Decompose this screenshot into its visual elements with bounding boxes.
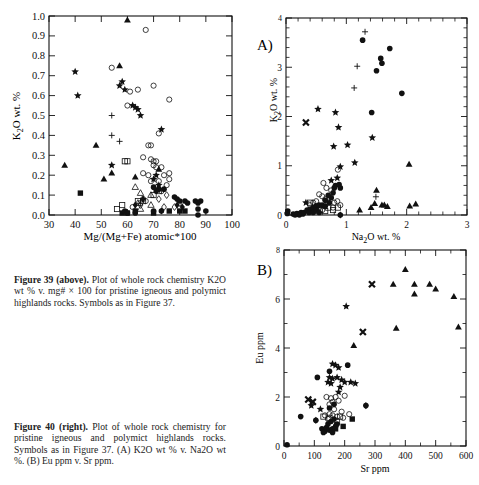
series-filled-diamond bbox=[313, 402, 368, 424]
tick-labels: 304050607080901000.00.10.20.30.40.50.60.… bbox=[32, 11, 240, 231]
data-point-square-filled bbox=[350, 416, 355, 421]
x-tick-label: 3 bbox=[465, 220, 470, 230]
x-tick-label: 50 bbox=[96, 219, 107, 230]
data-point-circle-open bbox=[331, 407, 336, 412]
y-tick-label: 8 bbox=[276, 246, 280, 255]
data-point-circle-filled bbox=[316, 210, 322, 216]
data-point-triangle-filled bbox=[411, 291, 418, 297]
y-tick-label: 0.3 bbox=[32, 150, 45, 161]
y-tick-label: 0 bbox=[275, 442, 280, 452]
data-point-x-bold bbox=[369, 281, 375, 287]
data-point-star bbox=[347, 378, 355, 385]
data-point-circle-open bbox=[167, 171, 172, 176]
x-tick-label: 100 bbox=[224, 219, 240, 230]
series-filled-hexagon bbox=[284, 362, 368, 447]
x-tick-label: 500 bbox=[429, 451, 444, 461]
data-point-circle-filled bbox=[132, 210, 138, 216]
data-point-circle-filled bbox=[387, 46, 393, 52]
y-tick-label: 4 bbox=[275, 344, 280, 354]
data-point-triangle-filled bbox=[455, 324, 462, 330]
data-point-circle-open bbox=[167, 97, 172, 102]
data-point-triangle-filled bbox=[350, 342, 357, 348]
data-point-star bbox=[137, 112, 145, 119]
data-point-diamond-filled bbox=[141, 195, 146, 202]
x-tick-label: 0 bbox=[282, 451, 287, 461]
data-point-square-open bbox=[323, 208, 328, 213]
data-point-x-bold bbox=[360, 329, 366, 335]
data-point-circle-open bbox=[324, 185, 329, 190]
y-axis-label: K2O wt. % bbox=[268, 78, 282, 122]
data-point-star bbox=[108, 161, 116, 168]
series-star bbox=[302, 105, 376, 206]
data-point-star bbox=[344, 141, 352, 148]
data-point-circle-filled bbox=[374, 68, 380, 74]
data-point-triangle-filled bbox=[393, 325, 400, 331]
data-point-circle-filled bbox=[195, 212, 201, 218]
x-axis-label: Sr ppm bbox=[360, 463, 389, 474]
data-point-triangle-filled bbox=[132, 174, 139, 180]
x-tick-label: 40 bbox=[70, 219, 81, 230]
data-point-circle-filled bbox=[195, 206, 201, 212]
data-point-circle-filled bbox=[292, 212, 298, 218]
chart-eu-vs-sr: 010020030040050060002468 B) Sr ppm Eu pp… bbox=[254, 246, 473, 474]
data-point-circle-filled bbox=[185, 200, 191, 206]
data-point-circle-filled bbox=[284, 442, 290, 448]
y-tick-label: 6 bbox=[275, 295, 280, 305]
data-point-circle-filled bbox=[345, 362, 351, 368]
data-point-circle-open bbox=[335, 167, 340, 172]
y-tick-label: 0.2 bbox=[32, 170, 45, 181]
y-tick-label: 0.9 bbox=[32, 30, 45, 41]
data-point-star bbox=[327, 177, 335, 184]
y-tick-label: 0.0 bbox=[32, 210, 45, 221]
data-point-star bbox=[351, 159, 359, 166]
data-point-triangle-filled bbox=[61, 162, 68, 168]
data-point-plus bbox=[351, 85, 357, 91]
tick-labels: 010020030040050060002468 bbox=[275, 246, 473, 461]
data-point-triangle-filled bbox=[412, 201, 419, 207]
data-point-diamond-filled bbox=[363, 402, 368, 409]
y-tick-label: 1.0 bbox=[32, 11, 45, 22]
y-axis-label: K2O wt. % bbox=[10, 92, 25, 140]
data-point-plus bbox=[117, 138, 123, 144]
data-point-star bbox=[317, 405, 325, 412]
data-point-triangle-filled bbox=[406, 161, 413, 167]
x-tick-label: 1 bbox=[344, 220, 349, 230]
panel-label-a: A) bbox=[257, 37, 273, 54]
y-tick-label: 0.7 bbox=[32, 70, 45, 81]
caption-label: Figure 39 (above). bbox=[14, 274, 89, 285]
data-point-square-open bbox=[114, 206, 119, 211]
data-points bbox=[61, 16, 208, 217]
data-point-circle-open bbox=[332, 200, 337, 205]
data-point-circle-filled bbox=[399, 91, 405, 97]
plot-frame bbox=[284, 250, 466, 446]
x-tick-label: 80 bbox=[174, 219, 185, 230]
data-point-square-open bbox=[120, 202, 125, 207]
data-point-triangle-open bbox=[137, 190, 143, 196]
data-point-circle-filled bbox=[327, 368, 333, 374]
data-point-circle-open bbox=[167, 177, 172, 182]
x-tick-label: 70 bbox=[148, 219, 159, 230]
data-point-circle-open bbox=[339, 409, 344, 414]
data-point-plus bbox=[354, 63, 360, 69]
data-point-triangle-filled bbox=[450, 293, 457, 299]
x-axis-label: Na2O wt. % bbox=[352, 231, 401, 245]
y-tick-label: 0.8 bbox=[32, 50, 45, 61]
data-point-star bbox=[158, 125, 166, 132]
data-point-diamond-filled bbox=[338, 211, 343, 218]
x-tick-label: 300 bbox=[368, 451, 383, 461]
data-point-circle-filled bbox=[330, 190, 336, 196]
data-point-triangle-filled bbox=[124, 16, 131, 22]
data-point-star bbox=[368, 134, 376, 141]
data-point-circle-filled bbox=[161, 186, 167, 192]
axis-ticks bbox=[284, 250, 466, 446]
data-point-circle-open bbox=[321, 180, 326, 185]
y-tick-label: 1 bbox=[277, 161, 282, 171]
data-point-circle-open bbox=[347, 412, 352, 417]
data-point-star bbox=[71, 68, 79, 75]
series-plus bbox=[109, 113, 123, 145]
data-point-triangle-filled bbox=[402, 266, 409, 272]
data-point-circle-filled bbox=[338, 185, 344, 191]
series-filled-hexagon bbox=[360, 37, 405, 115]
y-tick-label: 3 bbox=[277, 63, 282, 73]
data-point-square-filled bbox=[78, 190, 83, 195]
